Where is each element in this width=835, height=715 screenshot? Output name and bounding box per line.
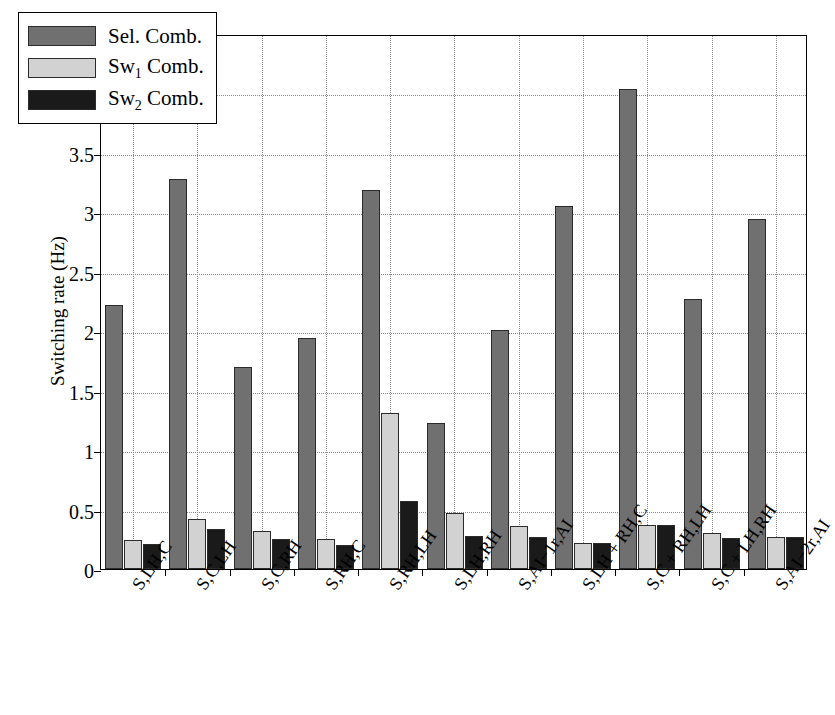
y-tick-label: 2.5 (14, 262, 94, 285)
bar (298, 338, 316, 569)
legend-label-sw1-comb: Sw1 Comb. (108, 54, 204, 82)
bar (105, 305, 123, 569)
legend-label-sel-comb: Sel. Comb. (108, 24, 202, 49)
y-tick-mark (94, 571, 101, 572)
bar (555, 206, 573, 569)
y-tick-label: 3 (14, 203, 94, 226)
legend-item-sel-comb: Sel. Comb. (28, 20, 204, 52)
x-tick-mark (551, 569, 552, 576)
bar (703, 533, 721, 569)
bar (362, 190, 380, 569)
x-tick-mark (230, 569, 231, 576)
y-tick-mark (94, 155, 101, 156)
x-gridline (454, 36, 455, 569)
y-tick-mark (94, 333, 101, 334)
bar (169, 179, 187, 569)
y-tick-mark (94, 214, 101, 215)
x-gridline (712, 36, 713, 569)
x-gridline (583, 36, 584, 569)
y-tick-label: 0 (14, 560, 94, 583)
bar (253, 531, 271, 569)
y-tick-mark (94, 393, 101, 394)
x-tick-mark (422, 569, 423, 576)
legend-item-sw1-comb: Sw1 Comb. (28, 52, 204, 84)
y-tick-mark (94, 512, 101, 513)
bar (188, 519, 206, 569)
y-tick-label: 3.5 (14, 143, 94, 166)
x-tick-mark (358, 569, 359, 576)
bar (619, 89, 637, 569)
x-gridline (776, 36, 777, 569)
x-gridline (326, 36, 327, 569)
y-tick-label: 2 (14, 322, 94, 345)
x-gridline (519, 36, 520, 569)
bar (234, 367, 252, 569)
y-tick-label: 1.5 (14, 381, 94, 404)
y-tick-label: 1 (14, 441, 94, 464)
x-tick-mark (679, 569, 680, 576)
x-tick-mark (744, 569, 745, 576)
bar (510, 526, 528, 569)
x-tick-mark (615, 569, 616, 576)
legend-swatch-sw1-comb (28, 58, 96, 78)
y-tick-label: 0.5 (14, 500, 94, 523)
bar (446, 513, 464, 569)
legend-swatch-sel-comb (28, 26, 96, 46)
x-tick-mark (165, 569, 166, 576)
legend-swatch-sw2-comb (28, 90, 96, 110)
chart-legend: Sel. Comb. Sw1 Comb. Sw2 Comb. (18, 12, 217, 124)
x-tick-mark (487, 569, 488, 576)
y-tick-mark (94, 274, 101, 275)
legend-label-sw2-comb: Sw2 Comb. (108, 86, 204, 114)
legend-item-sw2-comb: Sw2 Comb. (28, 84, 204, 116)
bar (638, 525, 656, 569)
x-gridline (647, 36, 648, 569)
x-tick-mark (294, 569, 295, 576)
bar (381, 413, 399, 569)
x-gridline (262, 36, 263, 569)
y-tick-mark (94, 452, 101, 453)
